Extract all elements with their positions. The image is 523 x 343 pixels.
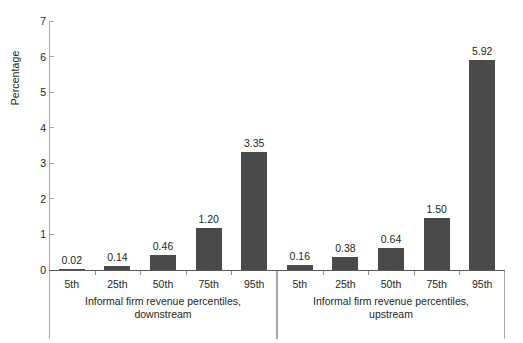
y-axis-tick-label: 5 — [40, 86, 46, 98]
x-axis-group-upstream: Informal firm revenue percentiles,upstre… — [277, 271, 505, 339]
x-axis-group-title: Informal firm revenue percentiles,downst… — [50, 295, 276, 321]
x-axis-group-downstream: Informal firm revenue percentiles,downst… — [49, 271, 277, 339]
bar-value-label: 3.35 — [224, 137, 284, 149]
bar-value-label: 1.20 — [179, 213, 239, 225]
bar — [150, 255, 176, 271]
bar-value-label: 0.64 — [361, 233, 421, 245]
bar — [241, 152, 267, 271]
bar — [332, 257, 358, 271]
bar — [378, 248, 404, 271]
chart-figure: Percentage 01234567 0.020.140.461.203.35… — [0, 0, 523, 343]
x-axis-group-title: Informal firm revenue percentiles,upstre… — [278, 295, 504, 321]
y-axis-tick-label: 2 — [40, 193, 46, 205]
bar — [424, 218, 450, 271]
y-axis-tick-label: 7 — [40, 15, 46, 27]
y-axis-title: Percentage — [9, 33, 27, 123]
y-axis-tick-label: 6 — [40, 51, 46, 63]
bar-value-label: 1.50 — [407, 203, 467, 215]
plot-area: 0.020.140.461.203.350.160.380.641.505.92 — [49, 21, 505, 271]
bar-value-label: 0.14 — [87, 251, 147, 263]
bar-value-label: 0.46 — [133, 240, 193, 252]
y-axis-tick-label: 1 — [40, 228, 46, 240]
bar — [469, 60, 495, 271]
y-axis-tick-label: 3 — [40, 157, 46, 169]
bar — [196, 228, 222, 271]
bar-value-label: 5.92 — [452, 45, 512, 57]
y-axis-tick-label: 4 — [40, 122, 46, 134]
